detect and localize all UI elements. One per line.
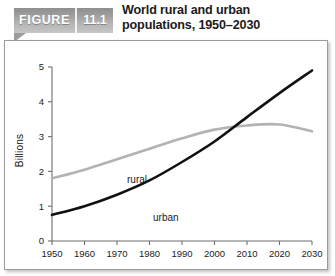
y-tick-label: 1 [39, 201, 44, 212]
figure-panel: FIGURE 11.1 World rural and urban popula… [0, 0, 335, 276]
figure-badge-word: FIGURE [14, 14, 75, 27]
series-label-rural: rural [127, 174, 147, 185]
x-tick-label: 1990 [171, 248, 192, 259]
x-tick-label: 1980 [139, 248, 160, 259]
figure-badge-divider [75, 8, 77, 33]
figure-title-line-1: World rural and urban [122, 3, 250, 17]
figure-number-box: 11.1 [77, 8, 113, 33]
x-tick-label: 2010 [236, 248, 257, 259]
x-tick-label: 1950 [41, 248, 62, 259]
figure-title: World rural and urban populations, 1950–… [122, 3, 330, 34]
line-chart: 012345 195019601970198019902000201020202… [5, 41, 329, 271]
y-tick-label: 2 [39, 166, 44, 177]
y-tick-label: 4 [39, 96, 44, 107]
series-line-rural [52, 124, 312, 178]
x-tick-label: 2000 [204, 248, 225, 259]
series-line-urban [52, 70, 312, 214]
y-axis-ticks: 012345 [39, 61, 52, 246]
figure-header: FIGURE 11.1 World rural and urban popula… [0, 0, 335, 40]
y-tick-label: 3 [39, 131, 44, 142]
figure-title-line-2: populations, 1950–2030 [122, 18, 330, 33]
x-tick-label: 1970 [106, 248, 127, 259]
x-tick-label: 1960 [74, 248, 95, 259]
x-tick-label: 2020 [269, 248, 290, 259]
x-tick-label: 2030 [301, 248, 322, 259]
figure-number: 11.1 [83, 14, 107, 27]
y-axis-title: Billions [14, 121, 25, 181]
chart-plot-area: Billions 012345 195019601970198019902000… [5, 41, 329, 271]
figure-badge: FIGURE 11.1 [14, 8, 113, 33]
series-label-urban: urban [153, 212, 179, 223]
chart-frame: Billions 012345 195019601970198019902000… [4, 40, 328, 270]
y-tick-label: 5 [39, 61, 44, 72]
y-tick-label: 0 [39, 235, 44, 246]
x-axis-ticks: 195019601970198019902000201020202030 [41, 241, 322, 259]
